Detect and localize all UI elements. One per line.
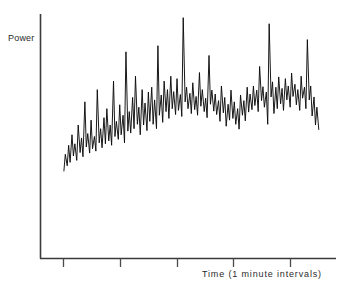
y-axis-label: Power <box>8 33 35 44</box>
power-signal-trace <box>64 18 319 172</box>
x-axis-label: Time (1 minute intervals) <box>202 269 322 280</box>
plot-canvas <box>0 0 344 296</box>
chart-figure: Power Time (1 minute intervals) <box>0 0 344 296</box>
